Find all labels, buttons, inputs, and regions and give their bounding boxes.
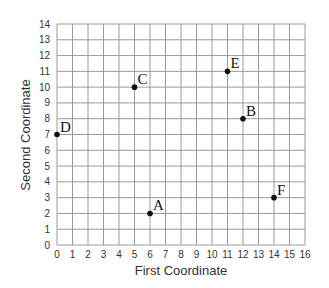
point-label: E — [231, 55, 240, 71]
y-tick-label: 1 — [44, 224, 50, 235]
x-tick-label: 4 — [116, 249, 122, 260]
point-f: F — [271, 182, 285, 201]
x-tick-label: 16 — [299, 249, 311, 260]
x-tick-label: 0 — [54, 249, 60, 260]
y-tick-label: 10 — [39, 82, 51, 93]
y-tick-label: 3 — [44, 192, 50, 203]
y-tick-label: 8 — [44, 113, 50, 124]
point-label: B — [246, 103, 256, 119]
y-axis-tick-labels: 01234567891011121314 — [39, 19, 51, 251]
x-tick-label: 14 — [268, 249, 280, 260]
grid-lines — [57, 24, 305, 245]
point-marker — [225, 69, 231, 75]
point-label: C — [138, 71, 148, 87]
y-tick-label: 11 — [40, 66, 51, 77]
y-tick-label: 5 — [44, 161, 50, 172]
x-tick-label: 12 — [237, 249, 249, 260]
y-tick-label: 7 — [44, 129, 50, 140]
point-marker — [132, 84, 138, 90]
point-marker — [54, 132, 60, 138]
y-tick-label: 9 — [44, 97, 50, 108]
x-tick-label: 11 — [222, 249, 233, 260]
y-tick-label: 2 — [44, 208, 50, 219]
x-tick-label: 7 — [163, 249, 169, 260]
point-label: F — [277, 182, 285, 198]
x-axis-tick-labels: 012345678910111213141516 — [54, 249, 311, 260]
x-tick-label: 10 — [206, 249, 218, 260]
y-tick-label: 12 — [39, 50, 51, 61]
point-label: A — [153, 197, 164, 213]
x-tick-label: 15 — [284, 249, 296, 260]
point-label: D — [60, 119, 71, 135]
coordinate-plane-chart: 012345678910111213141516 012345678910111… — [0, 0, 329, 288]
x-tick-label: 5 — [132, 249, 138, 260]
x-tick-label: 1 — [70, 249, 76, 260]
x-tick-label: 3 — [101, 249, 107, 260]
y-axis-label: Second Coordinate — [18, 79, 33, 190]
x-tick-label: 2 — [85, 249, 91, 260]
y-tick-label: 6 — [44, 145, 50, 156]
x-tick-label: 6 — [147, 249, 153, 260]
x-axis-label: First Coordinate — [135, 263, 227, 278]
y-tick-label: 14 — [39, 19, 51, 30]
point-e: E — [225, 55, 240, 74]
data-points: ABCDEF — [54, 55, 285, 216]
point-marker — [147, 211, 153, 217]
y-tick-label: 4 — [44, 176, 50, 187]
x-tick-label: 8 — [178, 249, 184, 260]
point-marker — [240, 116, 246, 122]
y-tick-label: 13 — [39, 34, 51, 45]
x-tick-label: 9 — [194, 249, 200, 260]
x-tick-label: 13 — [253, 249, 265, 260]
point-marker — [271, 195, 277, 201]
y-tick-label: 0 — [44, 240, 50, 251]
